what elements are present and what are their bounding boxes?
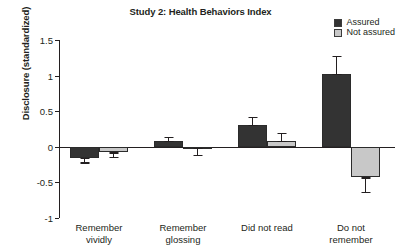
x-axis-category-label: Rememberglossing (138, 222, 228, 245)
y-axis-tick-label: -1 (45, 213, 53, 224)
x-axis-category-label-line: vividly (54, 234, 144, 246)
legend-item-not-assured: Not assured (334, 28, 395, 37)
y-axis-tick (55, 147, 59, 148)
legend-label-not-assured: Not assured (346, 28, 395, 37)
y-axis-tick (55, 40, 59, 41)
x-axis-category-label-line: remember (306, 234, 396, 246)
x-axis-category-label-line: Remember (54, 222, 144, 234)
y-axis-tick (55, 218, 59, 219)
error-bar-cap (277, 133, 286, 134)
error-bar-cap (193, 148, 202, 149)
y-axis-tick-label: 1 (48, 70, 53, 81)
chart-title: Study 2: Health Behaviors Index (0, 6, 401, 17)
y-axis-tick (55, 182, 59, 183)
error-bar-cap (277, 141, 286, 142)
chart-legend: Assured Not assured (334, 18, 395, 37)
error-bar-cap (361, 177, 370, 178)
legend-label-assured: Assured (346, 18, 379, 27)
y-axis-tick-label: 0 (48, 141, 53, 152)
y-axis-tick-label: -0.5 (37, 177, 53, 188)
error-bar-cap (80, 158, 89, 159)
error-bar-cap (332, 56, 341, 57)
bar (351, 147, 380, 178)
x-axis-category-label-line: Do not (306, 222, 396, 234)
error-bar-cap (332, 74, 341, 75)
bar (70, 147, 99, 158)
error-bar-cap (80, 162, 89, 163)
y-axis-tick (55, 76, 59, 77)
error-bar-cap (109, 157, 118, 158)
y-axis-tick-label: 0.5 (40, 106, 53, 117)
error-bar-cap (164, 137, 173, 138)
legend-item-assured: Assured (334, 18, 379, 27)
y-axis-tick (55, 111, 59, 112)
error-bar-cap (248, 117, 257, 118)
y-axis-tick-label: 1.5 (40, 35, 53, 46)
x-axis-category-label: Remembervividly (54, 222, 144, 245)
error-bar-cap (109, 152, 118, 153)
chart-figure: Study 2: Health Behaviors Index Assured … (0, 0, 401, 252)
x-axis-category-label: Did not read (222, 222, 312, 234)
bar (238, 125, 267, 147)
x-axis-category-label: Do notremember (306, 222, 396, 245)
error-bar-cap (361, 192, 370, 193)
error-bar-cap (193, 155, 202, 156)
x-axis-category-label-line: glossing (138, 234, 228, 246)
bar (322, 74, 351, 147)
legend-swatch-assured (334, 19, 342, 27)
error-bar-stem (336, 56, 337, 75)
y-axis-line (59, 40, 60, 218)
legend-swatch-not-assured (334, 29, 342, 37)
x-axis-category-label-line: Remember (138, 222, 228, 234)
plot-area: 1.510.50-0.5-1 (59, 40, 395, 218)
error-bar-stem (365, 177, 366, 191)
y-axis-title: Disclosure (standardized) (20, 0, 31, 139)
error-bar-cap (248, 125, 257, 126)
x-axis-category-label-line: Did not read (222, 222, 312, 234)
error-bar-cap (164, 141, 173, 142)
